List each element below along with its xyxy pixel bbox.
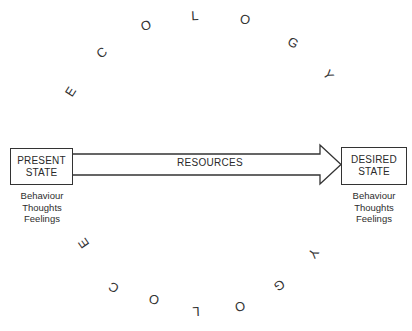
desired-attr-feelings: Feelings [340, 213, 408, 225]
present-attr-thoughts: Thoughts [8, 202, 76, 214]
desired-state-line1: DESIRED [351, 154, 397, 166]
present-state-box: PRESENT STATE [10, 148, 73, 185]
desired-attr-thoughts: Thoughts [340, 202, 408, 214]
desired-state-attributes: Behaviour Thoughts Feelings [340, 190, 408, 225]
ecology-diagram: E C O L O G Y E C O L O G Y RESOURCES PR… [0, 0, 412, 331]
resources-label: RESOURCES [150, 157, 270, 168]
present-state-line1: PRESENT [17, 155, 66, 167]
present-state-attributes: Behaviour Thoughts Feelings [8, 190, 76, 225]
present-state-line2: STATE [26, 167, 58, 179]
desired-state-box: DESIRED STATE [341, 147, 407, 185]
present-attr-feelings: Feelings [8, 213, 76, 225]
desired-state-line2: STATE [358, 166, 390, 178]
desired-attr-behaviour: Behaviour [340, 190, 408, 202]
present-attr-behaviour: Behaviour [8, 190, 76, 202]
